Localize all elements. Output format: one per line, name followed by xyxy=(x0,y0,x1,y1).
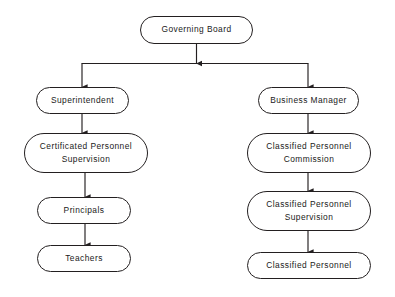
node-classified-personnel-supervision[interactable]: Classified Personnel Supervision xyxy=(247,191,371,231)
node-label: Principals xyxy=(60,204,109,217)
node-label: Classified Personnel Supervision xyxy=(262,198,355,224)
node-governing-board[interactable]: Governing Board xyxy=(140,16,253,44)
node-label: Classified Personnel Commission xyxy=(262,140,355,166)
node-label: Governing Board xyxy=(157,23,235,36)
node-superintendent[interactable]: Superintendent xyxy=(36,87,129,114)
node-label: Classified Personnel xyxy=(262,259,355,272)
node-classified-personnel-commission[interactable]: Classified Personnel Commission xyxy=(247,133,371,173)
node-business-manager[interactable]: Business Manager xyxy=(258,87,359,114)
node-certificated-personnel-supervision[interactable]: Certificated Personnel Supervision xyxy=(24,133,148,173)
node-label: Certificated Personnel Supervision xyxy=(36,140,136,166)
node-principals[interactable]: Principals xyxy=(37,197,131,224)
node-label: Superintendent xyxy=(47,94,118,107)
node-teachers[interactable]: Teachers xyxy=(37,245,131,272)
node-label: Business Manager xyxy=(266,94,351,107)
org-chart-canvas: Governing Board Superintendent Business … xyxy=(0,0,395,297)
node-classified-personnel[interactable]: Classified Personnel xyxy=(247,252,371,279)
node-label: Teachers xyxy=(61,252,107,265)
